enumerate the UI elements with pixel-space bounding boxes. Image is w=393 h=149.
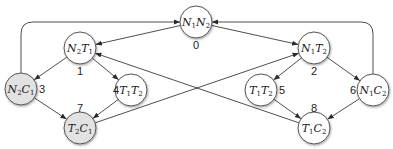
state-node-8: T1C28 — [298, 102, 330, 144]
state-node-5: T1T25 — [245, 74, 285, 106]
state-index-label: 2 — [311, 65, 317, 77]
state-index-label: 7 — [77, 102, 83, 114]
edge-2-to-6 — [327, 57, 360, 80]
edge-4-to-7 — [93, 100, 118, 119]
edge-2-to-5 — [274, 58, 302, 80]
state-index-label: 0 — [193, 39, 199, 51]
state-index-label: 8 — [311, 102, 317, 114]
edge-0-to-2 — [212, 25, 299, 44]
edge-6-to-0 — [212, 22, 373, 74]
state-index-label: 6 — [350, 84, 356, 96]
edge-1-to-3 — [34, 57, 67, 80]
state-node-7: T2C17 — [64, 102, 96, 144]
state-index-label: 1 — [77, 65, 83, 77]
state-node-1: N2T11 — [64, 32, 96, 77]
edge-0-to-1 — [96, 25, 181, 44]
edge-6-to-8 — [327, 99, 359, 120]
edge-1-to-4 — [92, 58, 118, 80]
state-index-label: 3 — [39, 83, 45, 95]
state-node-2: N1T22 — [298, 32, 330, 77]
state-transition-diagram: N1N20N2T11N1T22N2C13T1T24T1T25N1C26T2C17… — [0, 0, 393, 149]
state-index-label: 4 — [113, 84, 119, 96]
edge-3-to-7 — [34, 98, 66, 119]
state-node-3: N2C13 — [5, 73, 45, 105]
state-index-label: 5 — [279, 84, 285, 96]
nodes-layer: N1N20N2T11N1T22N2C13T1T24T1T25N1C26T2C17… — [5, 6, 389, 144]
state-node-0: N1N20 — [180, 6, 212, 51]
